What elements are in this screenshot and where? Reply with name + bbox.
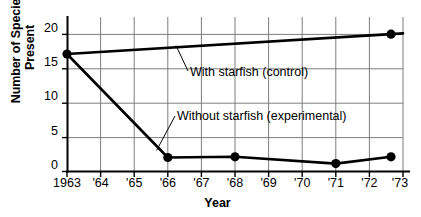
leader-line-control xyxy=(176,46,188,72)
axis-spines xyxy=(66,16,410,173)
data-point xyxy=(331,159,340,168)
leader-line-experimental xyxy=(157,116,176,151)
annotation-with-starfish-control: With starfish (control) xyxy=(190,66,308,79)
data-point xyxy=(386,152,395,161)
annotation-without-starfish-experimental: Without starfish (experimental) xyxy=(177,110,347,123)
x-axis-ticks xyxy=(67,172,403,177)
data-point xyxy=(386,30,395,39)
data-point xyxy=(230,152,239,161)
data-point xyxy=(163,153,172,162)
line-chart: Number of Species Present Year 20 15 10 … xyxy=(0,0,421,217)
vertical-gridlines xyxy=(101,17,403,172)
